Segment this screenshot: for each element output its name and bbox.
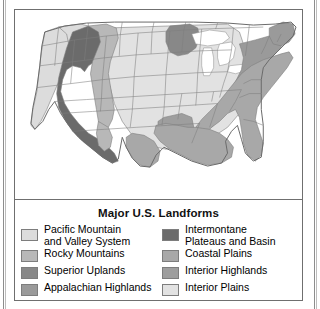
legend-item-superior-uplands: Superior Uplands bbox=[21, 265, 156, 281]
legend-swatch-rocky-mountains bbox=[21, 250, 38, 262]
legend-item-coastal-plains: Coastal Plains bbox=[162, 248, 297, 264]
legend-swatch-interior-highlands bbox=[162, 267, 179, 279]
region-appalachian-northeast bbox=[269, 22, 295, 46]
figure-page: Major U.S. Landforms Pacific Mountain an… bbox=[0, 0, 320, 309]
legend-label-appalachian-highlands: Appalachian Highlands bbox=[44, 282, 151, 294]
figure-panel: Major U.S. Landforms Pacific Mountain an… bbox=[14, 9, 303, 301]
legend-label-interior-highlands: Interior Highlands bbox=[185, 265, 267, 277]
legend-item-appalachian-highlands: Appalachian Highlands bbox=[21, 282, 156, 298]
legend-item-interior-plains: Interior Plains bbox=[162, 282, 297, 298]
legend-swatch-superior-uplands bbox=[21, 267, 38, 279]
legend-swatch-appalachian-highlands bbox=[21, 284, 38, 296]
map-legend: Major U.S. Landforms Pacific Mountain an… bbox=[15, 200, 302, 300]
great-lakes-michigan bbox=[202, 48, 214, 76]
legend-item-pacific-mountain-and-valley-system: Pacific Mountain and Valley System bbox=[21, 224, 156, 247]
legend-column-right: Intermontane Plateaus and Basin Coastal … bbox=[156, 224, 297, 299]
legend-item-interior-highlands: Interior Highlands bbox=[162, 265, 297, 281]
page-edge-rule-right-inner bbox=[316, 0, 317, 309]
legend-swatch-intermontane-plateaus-and-basin bbox=[162, 229, 179, 241]
page-edge-rule-left-inner bbox=[5, 0, 6, 309]
page-edge-rule-left bbox=[3, 0, 4, 309]
legend-label-pacific-mountain-and-valley-system: Pacific Mountain and Valley System bbox=[44, 224, 130, 247]
legend-columns: Pacific Mountain and Valley System Rocky… bbox=[15, 224, 302, 299]
legend-label-rocky-mountains: Rocky Mountains bbox=[44, 248, 125, 260]
legend-swatch-coastal-plains bbox=[162, 250, 179, 262]
legend-swatch-interior-plains bbox=[162, 284, 179, 296]
legend-label-interior-plains: Interior Plains bbox=[185, 282, 249, 294]
legend-item-rocky-mountains: Rocky Mountains bbox=[21, 248, 156, 264]
legend-label-superior-uplands: Superior Uplands bbox=[44, 265, 125, 277]
legend-column-left: Pacific Mountain and Valley System Rocky… bbox=[21, 224, 156, 299]
map-container bbox=[15, 10, 302, 200]
legend-item-intermontane-plateaus-and-basin: Intermontane Plateaus and Basin bbox=[162, 224, 297, 247]
page-edge-rule-right bbox=[314, 0, 315, 309]
legend-label-intermontane-plateaus-and-basin: Intermontane Plateaus and Basin bbox=[185, 224, 275, 247]
us-landforms-map bbox=[15, 10, 302, 199]
legend-swatch-pacific-mountain-and-valley-system bbox=[21, 229, 38, 241]
legend-label-coastal-plains: Coastal Plains bbox=[185, 248, 252, 260]
legend-title: Major U.S. Landforms bbox=[15, 206, 302, 220]
